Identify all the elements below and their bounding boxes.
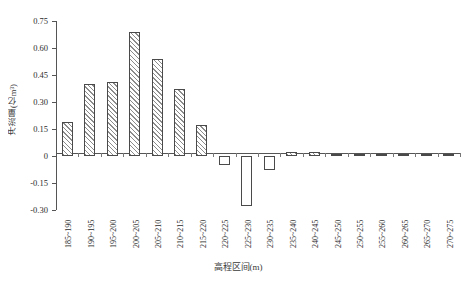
- y-tick-label: 0.30: [16, 98, 48, 107]
- bar: [241, 156, 252, 206]
- y-tick-label: 0.60: [16, 44, 48, 53]
- y-axis-tick-labels: 0.750.600.450.300.150-0.15-0.30: [12, 0, 48, 282]
- bar-series: [56, 21, 460, 210]
- x-tick-label: 240~245: [308, 212, 320, 256]
- x-tick-label: 260~265: [398, 212, 410, 256]
- bar: [331, 154, 342, 156]
- x-tick-label: 185~190: [61, 212, 73, 256]
- bar: [376, 154, 387, 156]
- y-tick-label: 0.45: [16, 71, 48, 80]
- x-tick-label: 230~235: [263, 212, 275, 256]
- bar: [219, 156, 230, 165]
- y-tick-label: 0.15: [16, 125, 48, 134]
- bar: [174, 89, 185, 156]
- bar: [62, 122, 73, 156]
- bar: [398, 154, 409, 156]
- x-tick-label: 245~250: [331, 212, 343, 256]
- y-tick-label: 0.75: [16, 17, 48, 26]
- bar: [196, 125, 207, 156]
- bar: [421, 154, 432, 156]
- y-tick-label: 0: [16, 152, 48, 161]
- sediment-volume-bar-chart: 冲淤量(亿m³) 0.750.600.450.300.150-0.15-0.30…: [0, 0, 476, 282]
- bar: [286, 152, 297, 156]
- bar: [84, 84, 95, 156]
- bar: [354, 154, 365, 156]
- x-tick-label: 210~215: [173, 212, 185, 256]
- x-axis-tick-labels: 185~190190~195195~200200~205205~210210~2…: [56, 212, 460, 258]
- x-tick-label: 270~275: [443, 212, 455, 256]
- bar: [443, 154, 454, 156]
- x-axis-title: 高程区间(m): [0, 260, 476, 273]
- x-tick-label: 235~240: [286, 212, 298, 256]
- bar: [264, 156, 275, 170]
- y-tick-label: -0.15: [16, 179, 48, 188]
- x-tick-label: 220~225: [218, 212, 230, 256]
- bar: [129, 32, 140, 156]
- x-tick-label: 205~210: [151, 212, 163, 256]
- x-tick-label: 190~195: [84, 212, 96, 256]
- x-tick-label: 250~255: [353, 212, 365, 256]
- x-tick-label: 255~260: [375, 212, 387, 256]
- bar: [309, 152, 320, 156]
- bar: [107, 82, 118, 156]
- x-tick-label: 265~270: [420, 212, 432, 256]
- x-tick-mark: [460, 153, 461, 157]
- y-tick-mark: [52, 210, 56, 211]
- y-tick-label: -0.30: [16, 206, 48, 215]
- x-tick-label: 195~200: [106, 212, 118, 256]
- plot-area: [56, 21, 460, 210]
- x-tick-label: 215~220: [196, 212, 208, 256]
- x-tick-label: 200~205: [129, 212, 141, 256]
- x-tick-label: 225~230: [241, 212, 253, 256]
- bar: [152, 59, 163, 156]
